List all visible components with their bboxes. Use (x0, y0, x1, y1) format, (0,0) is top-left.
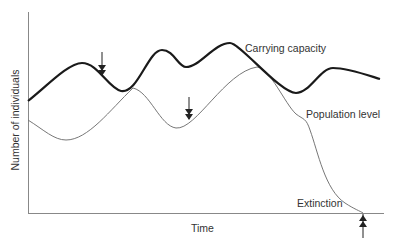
carrying-capacity-label: Carrying capacity (245, 42, 327, 54)
population-level-curve (28, 67, 363, 213)
population-level-label: Population level (306, 108, 380, 120)
extinction-arrow-icon (359, 214, 367, 238)
second-decline-arrow-icon (185, 97, 193, 120)
extinction-label: Extinction (297, 197, 343, 209)
x-axis-label: Time (191, 222, 214, 234)
carrying-capacity-curve (28, 43, 380, 101)
population-diagram: Carrying capacity Population level Extin… (0, 0, 394, 247)
y-axis-label: Number of individuals (9, 70, 21, 171)
